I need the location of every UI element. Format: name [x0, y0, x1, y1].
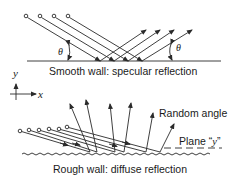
- angle-arc-left: [68, 45, 70, 60]
- plane-y-label-suffix: ”: [217, 135, 221, 147]
- plane-y-label: Plane “y”: [179, 136, 220, 148]
- y-axis-label: y: [13, 68, 18, 79]
- x-axis-label: x: [38, 89, 43, 100]
- plane-y-label-prefix: Plane “: [179, 135, 212, 147]
- smooth-wall-caption: Smooth wall: specular reflection: [49, 66, 197, 77]
- theta-label-right: θ: [176, 43, 181, 53]
- smooth-wall-panel: [24, 14, 221, 61]
- rough-wall-caption: Rough wall: diffuse reflection: [53, 164, 187, 175]
- diffuse-incident-rays: [18, 125, 160, 152]
- theta-label-left: θ: [58, 47, 63, 57]
- coordinate-axes: [10, 84, 36, 100]
- angle-arc-right: [170, 44, 172, 60]
- rough-wall-line: [22, 153, 210, 155]
- reflection-diagram: [0, 0, 239, 180]
- random-angle-label: Random angle: [159, 108, 227, 119]
